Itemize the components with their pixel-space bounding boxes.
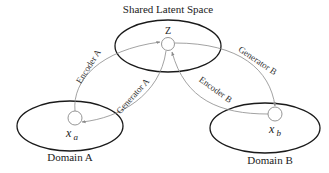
latent-z-node <box>162 38 175 51</box>
x-a-node <box>68 111 82 125</box>
encoder-a-label: Encoder A <box>74 47 103 85</box>
x-a-label: xa <box>65 126 78 142</box>
shared-latent-space-title: Shared Latent Space <box>123 3 214 15</box>
x-b-label: xb <box>268 122 281 138</box>
domain-a-label: Domain A <box>47 151 93 163</box>
domain-b-label: Domain B <box>247 154 293 166</box>
generator-a-label: Generator A <box>114 76 151 116</box>
domain-b-ellipse <box>210 103 320 153</box>
diagram-canvas: Shared Latent Space Z xa xb Encoder A G <box>0 0 329 173</box>
x-b-node <box>268 107 282 121</box>
generator-b-label: Generator B <box>237 44 279 77</box>
latent-z-label: Z <box>165 25 171 36</box>
encoder-b-label: Encoder B <box>197 74 234 105</box>
